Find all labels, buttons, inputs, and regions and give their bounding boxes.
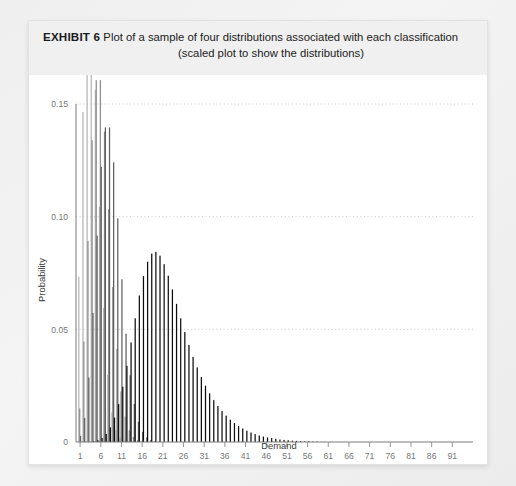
x-tick-label: 26 xyxy=(179,451,189,461)
x-tick-label: 86 xyxy=(427,451,437,461)
x-tick-label: 46 xyxy=(261,451,271,461)
bar xyxy=(130,342,131,442)
bar xyxy=(234,423,235,442)
bar xyxy=(168,276,169,442)
bar xyxy=(226,416,227,442)
y-axis-title: Probability xyxy=(36,258,47,302)
bar xyxy=(114,418,115,442)
x-tick-label: 11 xyxy=(117,451,126,461)
y-tick-label: 0.10 xyxy=(51,212,68,222)
bar xyxy=(221,411,222,442)
y-tick-label: 0.05 xyxy=(51,325,68,335)
bar xyxy=(92,313,93,442)
bar xyxy=(143,276,144,442)
bar xyxy=(80,436,81,442)
x-tick-label: 91 xyxy=(448,451,458,461)
x-tick-label: 21 xyxy=(158,451,168,461)
bar xyxy=(250,433,251,442)
exhibit-card: EXHIBIT 6 Plot of a sample of four distr… xyxy=(28,20,488,465)
bar xyxy=(217,406,218,442)
bar-series xyxy=(93,252,318,442)
bar xyxy=(242,428,243,442)
bar xyxy=(96,236,97,442)
bars xyxy=(78,75,318,442)
bar xyxy=(118,404,119,442)
bar xyxy=(172,289,173,442)
bar xyxy=(151,254,152,442)
x-tick-label: 6 xyxy=(98,451,103,461)
bar xyxy=(88,378,89,442)
x-tick-label: 31 xyxy=(199,451,209,461)
bar xyxy=(126,366,127,442)
exhibit-title-line2: (scaled plot to show the distributions) xyxy=(67,45,475,61)
x-tick-label: 81 xyxy=(406,451,416,461)
bar xyxy=(105,127,106,442)
bar xyxy=(139,296,140,442)
bar xyxy=(201,377,202,442)
x-tick-label: 56 xyxy=(303,451,313,461)
x-tick-label: 71 xyxy=(365,451,375,461)
x-tick-label: 1 xyxy=(78,451,83,461)
bar xyxy=(209,393,210,442)
gridlines xyxy=(76,104,473,329)
bar xyxy=(259,435,260,442)
bar xyxy=(84,418,85,442)
exhibit-title: EXHIBIT 6 Plot of a sample of four distr… xyxy=(43,29,475,61)
bar xyxy=(101,438,102,442)
x-tick-label: 51 xyxy=(282,451,292,461)
x-tick-label: 66 xyxy=(344,451,354,461)
distribution-chart: 00.050.100.15 16111621263136414651566166… xyxy=(29,75,489,466)
exhibit-title-line1: Plot of a sample of four distributions a… xyxy=(100,31,458,43)
bar xyxy=(113,162,114,442)
x-tick-label: 36 xyxy=(220,451,230,461)
y-tick-label: 0.15 xyxy=(51,99,68,109)
bar xyxy=(192,357,193,442)
bar xyxy=(205,386,206,442)
bar xyxy=(188,345,189,442)
bar xyxy=(184,332,185,442)
bar xyxy=(110,427,111,442)
chart-plot-area: 00.050.100.15 16111621263136414651566166… xyxy=(29,75,489,466)
bar xyxy=(106,434,107,442)
bar xyxy=(164,264,165,442)
bar xyxy=(155,252,156,442)
bar xyxy=(213,400,214,442)
bar xyxy=(238,426,239,442)
bar xyxy=(159,256,160,442)
y-axis-ticks: 00.050.100.15 xyxy=(51,99,68,447)
bar xyxy=(147,262,148,442)
bar xyxy=(246,431,247,442)
bar xyxy=(197,367,198,442)
x-tick-label: 76 xyxy=(386,451,396,461)
x-axis-title: Demand xyxy=(261,440,296,451)
bar xyxy=(135,318,136,442)
bar xyxy=(109,127,110,442)
x-tick-label: 61 xyxy=(323,451,333,461)
y-tick-label: 0 xyxy=(63,437,68,447)
x-tick-label: 41 xyxy=(241,451,251,461)
x-tick-label: 16 xyxy=(137,451,147,461)
bar xyxy=(176,304,177,442)
exhibit-number-label: EXHIBIT 6 xyxy=(43,30,100,43)
bar xyxy=(230,420,231,442)
bar xyxy=(255,434,256,442)
bar xyxy=(122,387,123,442)
bar xyxy=(180,318,181,442)
bar xyxy=(101,167,102,442)
